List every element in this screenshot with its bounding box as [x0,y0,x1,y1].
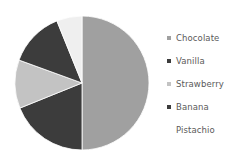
legend-item-chocolate[interactable]: Chocolate [167,26,234,49]
legend-item-pistachio[interactable]: Pistachio [167,118,234,141]
legend-label-banana: Banana [176,102,209,112]
legend-label-chocolate: Chocolate [176,33,219,43]
legend-marker-strawberry-icon [167,82,171,86]
pie-slice-chocolate[interactable] [82,16,149,150]
legend-label-vanilla: Vanilla [176,56,205,66]
legend-marker-pistachio-icon [167,128,171,132]
legend-item-banana[interactable]: Banana [167,95,234,118]
legend-marker-chocolate-icon [167,36,171,40]
legend-item-vanilla[interactable]: Vanilla [167,49,234,72]
pie-slice-group [15,16,149,150]
legend-marker-vanilla-icon [167,59,171,63]
legend-label-pistachio: Pistachio [176,125,215,135]
legend-item-strawberry[interactable]: Strawberry [167,72,234,95]
legend-marker-banana-icon [167,105,171,109]
pie-plot-area [0,0,160,166]
chart-legend: Chocolate Vanilla Strawberry Banana Pist… [167,26,234,142]
legend-label-strawberry: Strawberry [176,79,224,89]
pie-chart-figure: Chocolate Vanilla Strawberry Banana Pist… [0,0,234,166]
pie-svg [0,0,160,166]
